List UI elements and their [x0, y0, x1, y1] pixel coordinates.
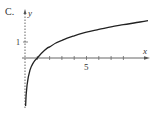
log-graph: y 1 x 5 [0, 0, 156, 113]
x-axis-label: x [142, 46, 147, 56]
x-tick-label-5: 5 [84, 62, 89, 72]
y-tick-label-1: 1 [16, 38, 20, 47]
y-axis-label: y [27, 8, 32, 18]
x-axis-arrow-icon [144, 56, 150, 59]
y-axis-arrow-icon [24, 9, 27, 14]
